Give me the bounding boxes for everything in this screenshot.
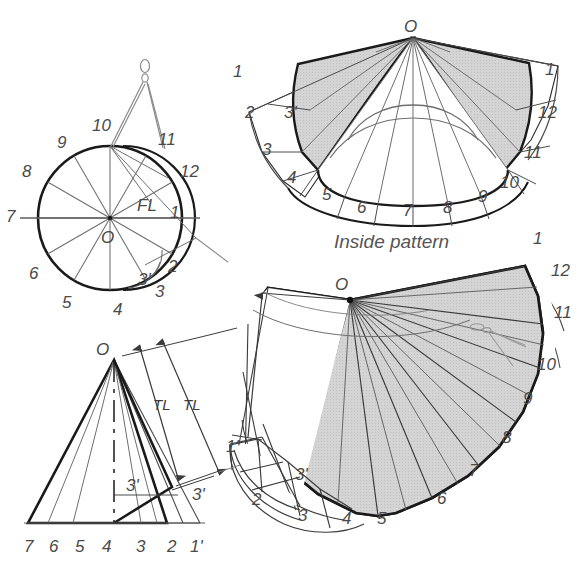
inside-label-3: 3 [262,140,272,159]
outside-label-12: 12 [551,261,570,280]
outside-apex-point [347,297,353,303]
plan-fl-label: FL [137,196,157,215]
plan-label-2: 2 [167,257,178,276]
inside-label-11: 11 [524,143,542,162]
elevation-3prime-label-2: 3' [192,485,205,504]
inside-label-9: 9 [478,187,488,206]
outside-label-8: 8 [502,428,512,447]
outside-label-6: 6 [437,489,447,508]
plan-center-point [108,216,112,220]
plan-label-8: 8 [22,162,32,181]
inside-label-7: 7 [403,201,413,220]
elevation-tl-label-1: TL [153,396,171,413]
outside-label-11: 11 [554,303,572,322]
plan-label-5: 5 [62,293,72,312]
outside-label-3: 3 [298,506,308,525]
plan-label-10: 10 [92,116,111,135]
plan-label-6: 6 [29,264,39,283]
inside-label-10: 10 [500,173,519,192]
elevation-base-label-3: 3 [136,537,146,556]
outside-label-2: 2 [251,490,262,509]
inside-label-2: 2 [244,103,255,122]
outside-label-7: 7 [469,461,479,480]
elevation-3prime-label-1: 3' [126,476,139,495]
technical-drawing-svg: 1 2 3 3' 4 5 6 7 8 9 10 11 12 O FL [0,0,580,576]
plan-label-12: 12 [180,162,199,181]
outside-apex-label: O [335,275,348,294]
inside-label-12: 12 [538,103,557,122]
plan-label-3prime: 3' [138,270,151,289]
elevation-base-label-7: 7 [24,537,34,556]
plan-circle-view: 1 2 3 3' 4 5 6 7 8 9 10 11 12 O FL [6,60,200,320]
cone-elevation-view: O TL TL 3' 3' 7 6 5 4 3 2 1' [24,328,240,556]
elevation-apex-label: O [96,340,109,359]
inside-label-4: 4 [287,168,296,187]
plan-label-1: 1 [170,203,179,222]
inside-label-6: 6 [357,198,367,217]
inside-label-5: 5 [322,185,332,204]
plan-label-3: 3 [155,282,165,301]
outside-label-9: 9 [523,389,533,408]
elevation-base-label-1prime: 1' [190,537,203,556]
outside-label-1: 1 [533,229,542,248]
inside-label-1-left: 1 [233,62,242,81]
outside-label-5: 5 [377,509,387,528]
divider-compass-icon [111,60,165,150]
inside-label-3prime: 3' [284,103,297,122]
elevation-base-label-6: 6 [49,537,59,556]
elevation-triangle [28,360,167,523]
plan-label-7: 7 [6,207,16,226]
outside-label-4: 4 [342,509,351,528]
plan-label-11: 11 [158,130,176,149]
elevation-tl-label-2: TL [183,396,201,413]
elevation-base-label-5: 5 [75,537,85,556]
outside-label-10: 10 [537,355,556,374]
inside-apex-label: O [404,17,417,36]
plan-label-4: 4 [113,300,122,319]
outside-label-1prime: 1' [226,437,239,456]
plan-center-label: O [101,228,114,247]
inside-label-1-right: 1 [545,60,554,79]
drawing-canvas: 1 2 3 3' 4 5 6 7 8 9 10 11 12 O FL [0,0,580,576]
inside-pattern-view: O 1 2 3' 3 4 5 6 7 8 9 10 11 12 1 [233,17,558,227]
outside-label-3prime: 3' [295,465,308,484]
plan-label-9: 9 [57,133,67,152]
elevation-base-label-4: 4 [102,537,111,556]
elevation-base-label-2: 2 [166,537,177,556]
inside-pattern-caption-line: Inside pattern [334,231,449,252]
outside-pattern-geometry: O 1' 2 3 3' 4 5 6 7 8 9 10 11 12 1 [226,229,580,574]
inside-label-8: 8 [443,198,453,217]
